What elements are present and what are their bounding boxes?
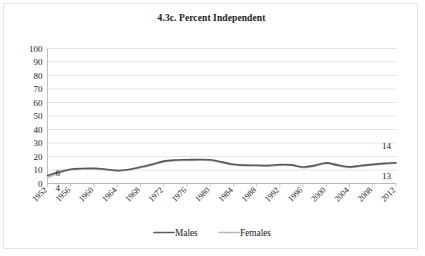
data-label-males-end: 14 [382,141,392,151]
x-axis-tick-label: 1992 [263,186,281,204]
plot-area: 0102030405060708090100 19521956196019641… [4,4,419,250]
x-axis-tick-label: 1976 [170,186,188,204]
legend-label-females: Females [240,228,271,238]
data-label-females-end: 13 [382,171,392,181]
x-axis-tick-label: 1988 [240,186,258,204]
y-axis-tick-label: 10 [34,165,44,175]
x-axis-tick-label: 2004 [333,185,352,204]
x-axis-tick-label: 1960 [77,186,95,204]
y-axis-tick-label: 70 [34,84,44,94]
line-chart-svg: 0102030405060708090100 19521956196019641… [4,4,419,250]
y-axis-tick-label: 30 [34,138,44,148]
y-axis-tick-label: 60 [34,98,44,108]
chart-container: 4.3c. Percent Independent 01020304050607… [3,3,418,249]
x-axis-tick-label: 1968 [124,186,142,204]
y-axis-tick-label: 50 [34,111,44,121]
y-axis-tick-label: 20 [34,152,44,162]
x-axis-tick-label: 2000 [310,186,328,204]
x-axis-tick-label: 1972 [147,186,165,204]
x-axis-tick-labels: 1952195619601964196819721976198019841988… [31,185,398,204]
x-axis-tick-label: 1952 [31,186,49,204]
x-axis-tick-label: 1980 [193,186,211,204]
y-axis-tick-label: 90 [34,57,44,67]
legend-label-males: Males [175,228,198,238]
x-axis-tick-label: 2008 [356,186,374,204]
y-axis-tick-label: 80 [34,71,44,81]
data-label-males-start: 6 [56,168,61,178]
y-axis-tick-label: 100 [29,44,43,54]
y-axis-tick-labels: 0102030405060708090100 [29,44,43,189]
y-axis-tick-label: 40 [34,125,44,135]
data-label-females-start: 4 [56,183,61,193]
x-axis-tick-label: 1964 [100,185,119,204]
legend: Males Females [154,228,271,238]
x-axis-tick-label: 1996 [286,186,304,204]
x-axis-tick-label: 1984 [217,185,236,204]
x-axis-tick-label: 2012 [379,186,397,204]
